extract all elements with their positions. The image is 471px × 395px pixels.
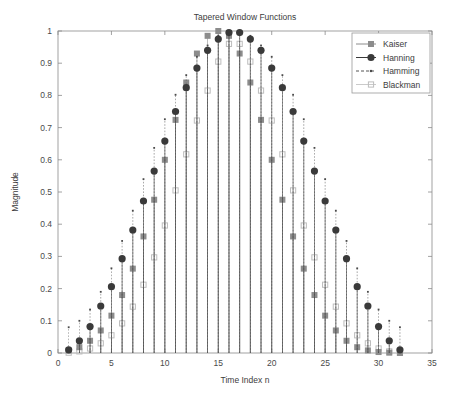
data-point-circle xyxy=(268,64,275,71)
data-point-circle xyxy=(289,108,296,115)
data-point-circle xyxy=(193,64,200,71)
data-point-dot xyxy=(100,291,102,293)
legend-marker-kaiser xyxy=(368,41,374,47)
series-hamming xyxy=(68,30,401,353)
x-tick-label: 35 xyxy=(427,358,437,368)
data-point-circle xyxy=(172,108,179,115)
data-point-circle xyxy=(375,323,382,330)
legend-label-hamming: Hamming xyxy=(383,66,420,76)
y-tick-label: 0 xyxy=(47,348,52,358)
data-point-circle xyxy=(247,35,254,42)
data-point-dot xyxy=(89,309,91,311)
y-tick-label: 0.5 xyxy=(40,187,52,197)
data-point-circle xyxy=(396,346,403,353)
data-point-square xyxy=(205,33,211,39)
data-point-dot xyxy=(282,74,284,76)
data-point-dot xyxy=(121,240,123,242)
data-point-circle xyxy=(236,29,243,36)
data-point-circle xyxy=(65,346,72,353)
y-tick-label: 0.3 xyxy=(40,251,52,261)
data-point-circle xyxy=(97,302,104,309)
data-point-circle xyxy=(343,255,350,262)
data-point-circle xyxy=(204,47,211,54)
data-point-circle xyxy=(311,167,318,174)
x-axis-label: Time Index n xyxy=(221,375,270,385)
data-point-circle xyxy=(364,302,371,309)
data-point-circle xyxy=(161,138,168,145)
data-point-dot xyxy=(399,326,401,328)
data-point-dot xyxy=(68,326,70,328)
data-point-circle xyxy=(86,323,93,330)
x-tick-label: 30 xyxy=(374,358,384,368)
data-point-square xyxy=(215,28,221,34)
y-tick-label: 0.7 xyxy=(40,123,52,133)
data-point-dot xyxy=(196,56,198,58)
data-point-dot xyxy=(378,309,380,311)
y-axis-label: Magnitude xyxy=(10,172,20,212)
x-tick-label: 25 xyxy=(320,358,330,368)
data-point-dot xyxy=(388,320,390,322)
y-tick-label: 0.9 xyxy=(40,58,52,68)
data-point-dot xyxy=(185,74,187,76)
data-point-circle xyxy=(140,197,147,204)
x-tick-label: 10 xyxy=(160,358,170,368)
data-point-circle xyxy=(354,283,361,290)
data-point-dot xyxy=(346,240,348,242)
legend-marker-hanning xyxy=(367,54,374,61)
data-point-dot xyxy=(78,320,80,322)
data-point-circle xyxy=(300,138,307,145)
y-tick-label: 1 xyxy=(47,26,52,36)
chart-title: Tapered Window Functions xyxy=(194,12,297,22)
data-point-dot xyxy=(335,210,337,212)
data-point-dot xyxy=(143,178,145,180)
legend-label-blackman: Blackman xyxy=(383,80,421,90)
x-tick-label: 0 xyxy=(56,358,61,368)
data-point-dot xyxy=(111,267,113,269)
legend-label-hanning: Hanning xyxy=(383,53,415,63)
data-point-dot xyxy=(314,147,316,149)
data-point-circle xyxy=(76,337,83,344)
data-point-dot xyxy=(132,210,134,212)
data-point-circle xyxy=(151,167,158,174)
data-point-dot xyxy=(207,45,209,47)
data-point-dot xyxy=(367,291,369,293)
data-point-dot xyxy=(175,94,177,96)
data-point-circle xyxy=(183,84,190,91)
y-tick-label: 0.1 xyxy=(40,316,52,326)
data-point-circle xyxy=(225,29,232,36)
y-tick-label: 0.2 xyxy=(40,284,52,294)
data-point-dot xyxy=(271,56,273,58)
data-point-circle xyxy=(257,47,264,54)
data-point-dot xyxy=(324,178,326,180)
y-tick-label: 0.4 xyxy=(40,219,52,229)
tapered-window-chart: Tapered Window Functions00.10.20.30.40.5… xyxy=(0,0,471,395)
x-tick-label: 20 xyxy=(267,358,277,368)
data-point-circle xyxy=(119,255,126,262)
data-point-circle xyxy=(279,84,286,91)
data-point-circle xyxy=(332,226,339,233)
data-point-square xyxy=(194,51,200,57)
data-point-dot xyxy=(260,45,262,47)
data-point-circle xyxy=(386,337,393,344)
x-tick-label: 15 xyxy=(214,358,224,368)
y-tick-label: 0.6 xyxy=(40,155,52,165)
data-point-circle xyxy=(108,283,115,290)
data-point-dot xyxy=(303,118,305,120)
legend-marker-hamming xyxy=(370,70,372,72)
data-point-circle xyxy=(215,35,222,42)
data-point-circle xyxy=(322,197,329,204)
data-point-dot xyxy=(292,94,294,96)
data-point-circle xyxy=(129,226,136,233)
data-point-dot xyxy=(164,118,166,120)
legend-label-kaiser: Kaiser xyxy=(383,39,407,49)
chart-container: Tapered Window Functions00.10.20.30.40.5… xyxy=(0,0,471,395)
y-tick-label: 0.8 xyxy=(40,90,52,100)
data-point-dot xyxy=(153,147,155,149)
x-tick-label: 5 xyxy=(109,358,114,368)
data-point-dot xyxy=(356,267,358,269)
